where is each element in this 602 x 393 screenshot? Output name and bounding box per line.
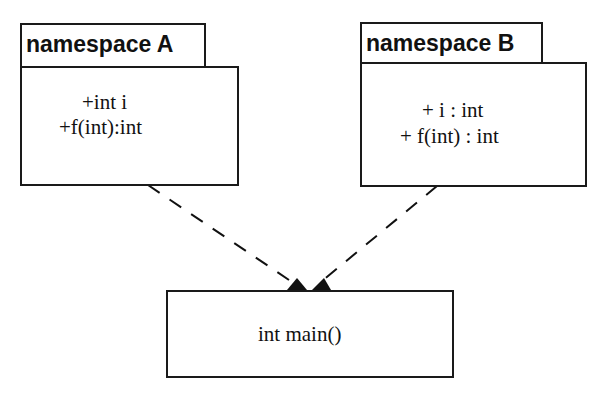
- namespace-b-member: + f(int) : int: [400, 124, 499, 149]
- main-function-box: int main(): [166, 290, 454, 378]
- namespace-b-member: + i : int: [422, 98, 483, 123]
- namespace-b-title: namespace B: [366, 30, 514, 56]
- namespace-a-box: +int i +f(int):int: [20, 66, 239, 186]
- edge-a-to-main: [148, 185, 292, 282]
- namespace-b-tab: namespace B: [360, 22, 543, 64]
- namespace-a-member: +f(int):int: [59, 115, 142, 140]
- namespace-b-box: + i : int + f(int) : int: [360, 62, 587, 187]
- arrowhead-b-icon: [312, 278, 331, 290]
- namespace-a-title: namespace A: [26, 31, 173, 57]
- edge-b-to-main: [322, 186, 437, 281]
- main-function-label: int main(): [258, 322, 341, 347]
- arrowhead-a-icon: [287, 278, 307, 290]
- namespace-a-member: +int i: [82, 90, 127, 115]
- namespace-a-tab: namespace A: [20, 23, 206, 68]
